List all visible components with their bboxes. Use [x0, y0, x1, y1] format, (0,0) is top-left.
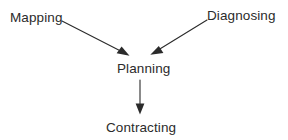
edge-line-diagnosing-to-planning: [155, 20, 208, 52]
flow-diagram-canvas: Mapping Diagnosing Planning Contracting: [0, 0, 288, 140]
arrowhead-planning-to-contracting: [136, 104, 145, 115]
arrowhead-mapping-to-planning: [117, 46, 130, 55]
node-label-diagnosing: Diagnosing: [207, 8, 276, 24]
node-label-mapping: Mapping: [10, 10, 63, 26]
node-label-contracting: Contracting: [106, 120, 176, 136]
edge-planning-to-contracting: [136, 80, 145, 115]
edge-mapping-to-planning: [62, 21, 130, 56]
edge-line-mapping-to-planning: [62, 21, 126, 54]
edge-diagnosing-to-planning: [150, 20, 207, 55]
node-label-planning: Planning: [117, 61, 170, 77]
